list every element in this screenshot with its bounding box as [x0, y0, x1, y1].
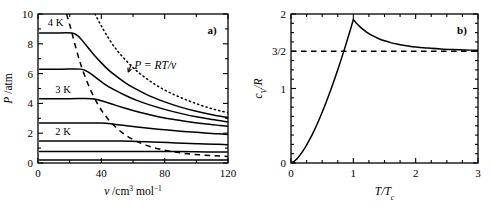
panel-a-ideal-gas-annotation: P = RT/v	[133, 59, 177, 71]
panel-a-condensation-boundary	[67, 14, 229, 156]
panel-b-xticklabel: 0	[288, 167, 294, 179]
two-panel-figure: 040801200246810v /cm3 mol−1P /atm4 K3 K2…	[0, 0, 490, 210]
panel-b-bose-heat-capacity-below-Tc	[291, 20, 353, 163]
panel-a-yticklabel: 2	[28, 127, 34, 139]
panel-b-yticklabel: 0	[281, 157, 287, 169]
panel-b-xticklabel: 3	[475, 167, 481, 179]
panel-a-isotherm-1.5K	[40, 151, 228, 152]
panel-b-xticklabel: 1	[351, 167, 357, 179]
panel-a-label-4K: 4 K	[48, 17, 64, 28]
panel-b-xaxis-label: T/Tc	[375, 185, 395, 202]
panel-a-label-3K: 3 K	[55, 84, 71, 95]
panel-a-yaxis-label: P /atm	[2, 73, 14, 104]
panel-a-yticklabel: 0	[28, 157, 34, 169]
panel-a-isotherm-2K	[40, 141, 228, 145]
panel-a-yticklabel: 8	[28, 38, 34, 50]
panel-b-xticklabel: 2	[413, 167, 419, 179]
figure-container: 040801200246810v /cm3 mol−1P /atm4 K3 K2…	[0, 0, 490, 210]
panel-a-isotherm-3.5K	[40, 69, 228, 122]
panel-b-label: b)	[457, 24, 467, 37]
panel-a-yticklabel: 4	[28, 97, 34, 109]
panel-a-xticklabel: 0	[35, 167, 41, 179]
panel-a-label-2K: 2 K	[55, 126, 71, 137]
panel-a-yticklabel: 6	[28, 68, 34, 80]
panel-a-xticklabel: 80	[159, 167, 171, 179]
panel-b-yaxis-label: cV/R	[252, 79, 269, 99]
panel-a-xaxis-label: v /cm3 mol−1	[104, 184, 162, 198]
panel-a-yticklabel: 10	[22, 8, 34, 20]
panel-a-label: a)	[207, 24, 217, 37]
panel-b-plot-frame	[291, 14, 478, 163]
panel-a-xticklabel: 120	[220, 167, 237, 179]
panel-b-yticklabel: 2	[281, 8, 287, 20]
panel-a-isotherm-4K	[40, 33, 228, 118]
panel-b-yticklabel: 1	[281, 83, 287, 95]
panel-b-yticklabel: 3/2	[272, 45, 286, 57]
panel-a-xticklabel: 40	[96, 167, 108, 179]
